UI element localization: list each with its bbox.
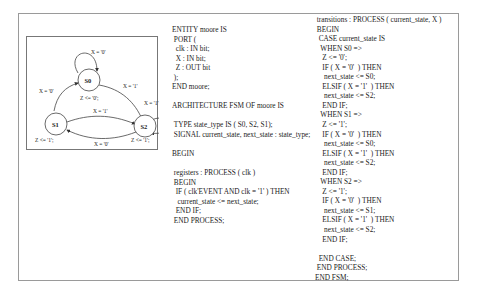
code-line: ELSIF ( X = '1' ) THEN [315,215,441,225]
state-output-s1: Z <= '1'; [35,137,54,143]
transition-label-s1-s2: X = '1' [93,108,108,114]
code-line [172,159,310,169]
code-line: Z <= '1'; [315,120,441,130]
code-line: END IF; [315,101,441,111]
transition-s1-s0 [54,83,78,111]
code-line: clk : IN bit; [172,44,310,54]
state-label-s0: S0 [85,77,92,84]
code-line: END CASE; [315,254,441,264]
transition-label-s0-s0: X = '0' [91,49,106,55]
code-line: ); [172,73,310,83]
code-line [172,140,310,150]
vhdl-code-transitions-process: transitions : PROCESS ( current_state, X… [315,15,441,282]
code-line: END IF; [315,168,441,178]
code-line: IF ( clk'EVENT AND clk = '1' ) THEN [172,187,310,197]
vhdl-code-entity-architecture: ENTITY moore IS PORT ( clk : IN bit; X :… [172,25,310,225]
code-line: next_state <= S2; [315,225,441,235]
code-line: next_state <= S0; [315,139,441,149]
state-label-s1: S1 [52,121,59,128]
state-diagram: X = '0' X = '1' X = '0' X = '1' X = '0' … [26,36,158,150]
code-line: IF ( X = '0' ) THEN [315,130,441,140]
code-line [172,92,310,102]
code-line: BEGIN [172,178,310,188]
code-line [315,244,441,254]
code-line: BEGIN [172,149,310,159]
code-line: next_state <= S1; [315,206,441,216]
code-line: WHEN S0 => [315,44,441,54]
code-line: END PROCESS; [315,263,441,273]
code-line: next_state <= S2; [315,91,441,101]
transition-label-s0-s2: X = '1' [123,83,138,89]
code-line: Z <= '1'; [315,187,441,197]
code-line: END moore; [172,82,310,92]
code-line [172,111,310,121]
code-line: next_state <= S2; [315,158,441,168]
code-line: next_state <= S0; [315,72,441,82]
code-line: ENTITY moore IS [172,25,310,35]
code-line: transitions : PROCESS ( current_state, X… [315,15,441,25]
code-line: END PROCESS; [172,216,310,226]
state-output-s0: Z <= '0'; [80,95,99,101]
code-line: IF ( X = '0' ) THEN [315,196,441,206]
code-line: SIGNAL current_state, next_state : state… [172,130,310,140]
transition-s2-s1 [67,130,136,139]
code-line: current_state <= next_state; [172,197,310,207]
code-line: ARCHITECTURE FSM OF moore IS [172,101,310,111]
transition-label-s2-s2: X = '1' [144,100,159,106]
state-label-s2: S2 [141,123,148,130]
code-line: END FSM; [315,273,441,283]
code-line: TYPE state_type IS ( S0, S2, S1); [172,120,310,130]
code-line: ELSIF ( X = '1' ) THEN [315,149,441,159]
transition-s1-s2 [67,116,135,124]
code-line: CASE current_state IS [315,34,441,44]
code-line: IF ( X = '0' ) THEN [315,63,441,73]
code-line: registers : PROCESS ( clk ) [172,168,310,178]
code-line: ELSIF ( X = '1' ) THEN [315,82,441,92]
state-output-s2: Z <= '1'; [131,137,150,143]
code-line: END IF; [172,206,310,216]
code-line: X : IN bit; [172,54,310,64]
transition-label-s2-s1: X = '0' [94,141,109,147]
code-line: WHEN S2 => [315,177,441,187]
code-line: Z <= '0'; [315,53,441,63]
code-line: BEGIN [315,25,441,35]
transition-label-s1-s0: X = '0' [39,88,54,94]
code-line: WHEN S1 => [315,110,441,120]
code-line: PORT ( [172,35,310,45]
code-line: Z : OUT bit [172,63,310,73]
code-line: END IF; [315,235,441,245]
